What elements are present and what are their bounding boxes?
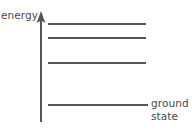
energy-level-line — [48, 62, 146, 64]
ground-state-line — [48, 104, 148, 106]
energy-level-line — [48, 37, 146, 39]
energy-level-line — [48, 23, 146, 25]
ground-state-label-line1: ground — [151, 97, 189, 110]
ground-state-label: ground state — [151, 97, 189, 123]
up-arrow-axis-icon — [33, 8, 51, 128]
ground-state-label-line2: state — [151, 110, 189, 123]
energy-level-diagram: energy ground state — [0, 0, 192, 136]
